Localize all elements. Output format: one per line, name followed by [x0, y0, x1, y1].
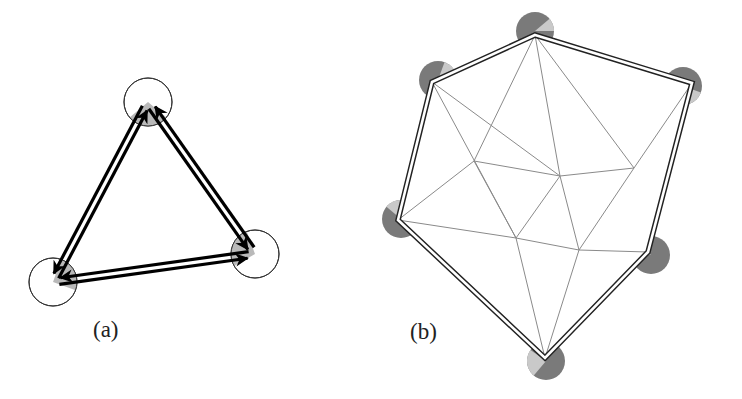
panel-b-label: (b) [410, 320, 437, 343]
directed-edge-right-to-top [155, 107, 254, 248]
directed-edge-bottom-left-to-top [59, 111, 147, 279]
directed-edge-right-to-bottom-left [60, 252, 248, 278]
panel-a-cyclic-graph [29, 78, 279, 306]
panel-a-label: (a) [93, 318, 119, 341]
panel-a-edges [54, 106, 254, 285]
directed-edge-top-to-bottom-left [54, 106, 142, 274]
directed-edge-top-to-right [149, 109, 248, 250]
directed-edge-bottom-left-to-right [59, 258, 247, 284]
